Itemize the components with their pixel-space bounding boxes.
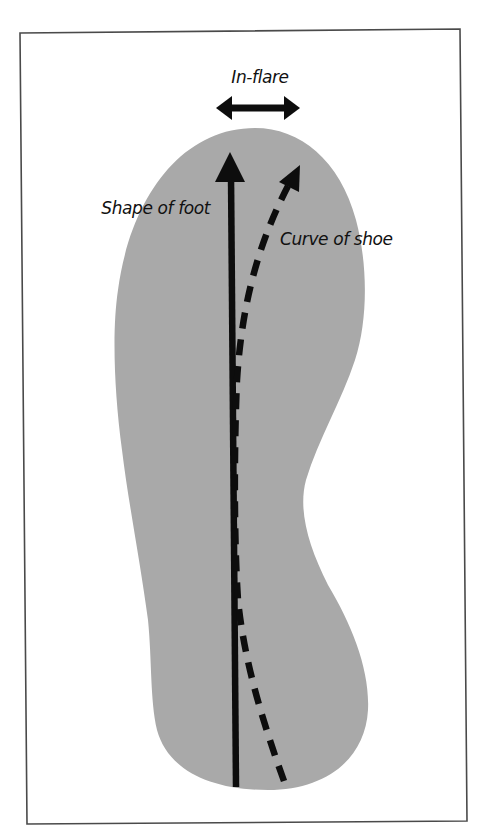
curve-of-shoe-label: Curve of shoe <box>280 229 393 249</box>
arrowhead-left-icon <box>216 96 232 120</box>
foot-in-flare-diagram: In-flare Shape of foot Curve of shoe <box>0 0 486 828</box>
shape-of-foot-label: Shape of foot <box>101 198 211 218</box>
arrowhead-right-icon <box>284 96 300 120</box>
in-flare-arrow <box>216 96 300 120</box>
foot-outline <box>115 128 369 790</box>
in-flare-label: In-flare <box>231 67 288 87</box>
